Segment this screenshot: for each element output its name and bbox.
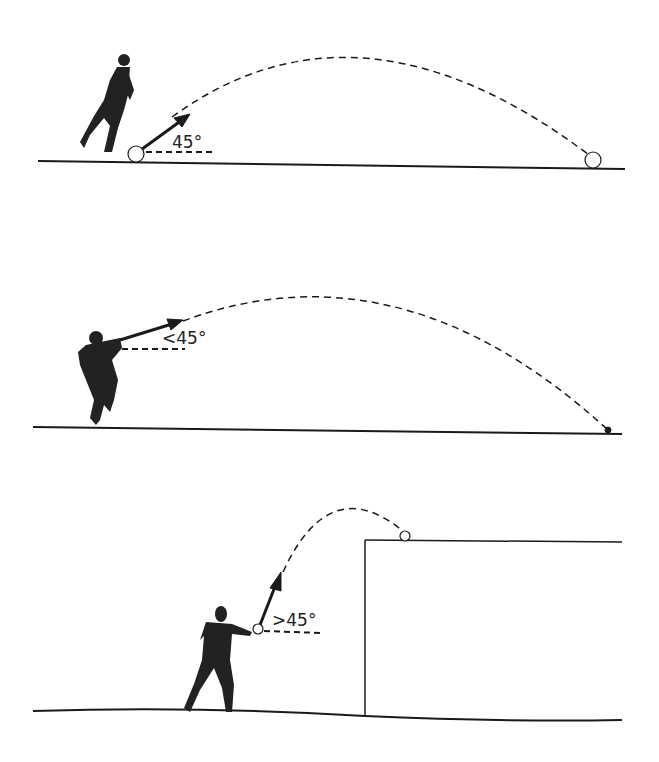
ball: [253, 624, 263, 634]
ball-landed: [605, 427, 611, 433]
horizontal-reference: [264, 631, 322, 633]
panel-lob: [33, 509, 622, 721]
lobber-figure: [184, 606, 252, 712]
ground-line: [33, 709, 622, 720]
projectile-diagram: [0, 0, 659, 762]
ball-landed: [400, 531, 410, 541]
trajectory: [183, 297, 608, 430]
angle-label-greater-45: >45°: [272, 610, 316, 630]
ball-landed: [585, 152, 601, 168]
ground-line: [33, 427, 622, 434]
ground-line: [38, 161, 625, 169]
thrower-figure: [78, 331, 122, 425]
panel-kick: [38, 54, 625, 169]
arrow-head: [270, 572, 281, 591]
ball: [128, 146, 144, 162]
panel-throw: [33, 297, 622, 434]
trajectory: [172, 57, 593, 158]
kicker-figure: [80, 54, 134, 152]
angle-label-less-45: <45°: [162, 328, 206, 348]
angle-label-45: 45°: [172, 132, 202, 152]
